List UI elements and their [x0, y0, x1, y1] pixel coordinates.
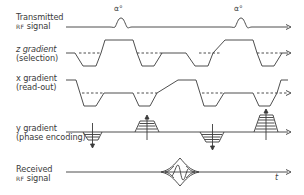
- z-gradient-trace: [66, 40, 291, 66]
- received-rf-trace: [66, 158, 291, 186]
- x-gradient-trace: [66, 80, 291, 106]
- pulse-sequence-diagram: [0, 0, 304, 195]
- transmitted-rf-trace: [66, 18, 291, 30]
- y-gradient-trace: [66, 109, 291, 150]
